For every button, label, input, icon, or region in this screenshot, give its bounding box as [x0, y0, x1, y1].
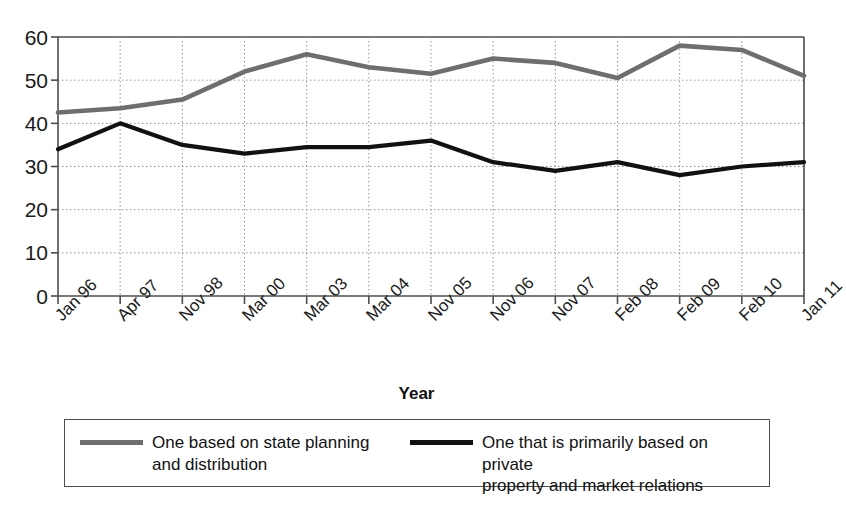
x-tick-labels: Jan 96Apr 97Nov 98Mar 00Mar 03Mar 04Nov …	[0, 300, 833, 380]
x-axis-title: Year	[0, 384, 833, 404]
legend-swatch-gray	[80, 440, 143, 445]
legend-label-private-property: One that is primarily based on private p…	[482, 432, 760, 497]
legend-label-state-planning: One based on state planning and distribu…	[152, 432, 369, 475]
legend-label-line2: and distribution	[152, 455, 267, 474]
legend-item-state-planning: One based on state planning and distribu…	[80, 432, 410, 475]
legend-label-line2: property and market relations	[482, 476, 703, 495]
legend-swatch-black	[410, 440, 473, 445]
legend-item-private-property: One that is primarily based on private p…	[410, 432, 760, 497]
legend: One based on state planning and distribu…	[64, 419, 770, 487]
legend-label-line1: One based on state planning	[152, 433, 369, 452]
axis-ticks	[51, 37, 804, 304]
cropped-footer-caption	[0, 508, 833, 517]
legend-label-line1: One that is primarily based on private	[482, 433, 708, 474]
